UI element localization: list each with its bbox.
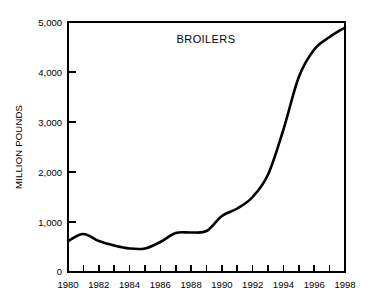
y-axis-title: MILLION POUNDS xyxy=(13,105,24,189)
data-series-line-broilers xyxy=(68,28,345,250)
y-axis-ticks xyxy=(68,72,76,222)
x-tick-label-1980: 1980 xyxy=(57,279,78,290)
y-tick-label-1000: 1,000 xyxy=(38,217,62,228)
chart-title: BROILERS xyxy=(177,33,236,45)
y-tick-label-2000: 2,000 xyxy=(38,167,62,178)
x-tick-label-1986: 1986 xyxy=(150,279,171,290)
y-tick-label-4000: 4,000 xyxy=(38,67,62,78)
axis-frame xyxy=(68,22,345,272)
x-tick-label-1990: 1990 xyxy=(211,279,232,290)
x-tick-label-1996: 1996 xyxy=(304,279,325,290)
x-tick-label-1984: 1984 xyxy=(119,279,140,290)
x-tick-label-1988: 1988 xyxy=(181,279,202,290)
y-tick-label-5000: 5,000 xyxy=(38,17,62,28)
y-tick-label-0: 0 xyxy=(57,266,62,277)
x-axis-tick-labels: 1980198219841986198819901992199419961998 xyxy=(57,279,355,290)
plot-border xyxy=(68,22,345,272)
y-axis-tick-labels: 0 1,000 2,000 3,000 4,000 5,000 xyxy=(38,17,62,278)
x-tick-label-1994: 1994 xyxy=(273,279,294,290)
x-tick-label-1982: 1982 xyxy=(88,279,109,290)
y-tick-label-3000: 3,000 xyxy=(38,117,62,128)
x-tick-label-1992: 1992 xyxy=(242,279,263,290)
x-tick-label-1998: 1998 xyxy=(334,279,355,290)
chart-plot-svg: 0 1,000 2,000 3,000 4,000 5,000 19801982… xyxy=(0,0,372,306)
broilers-chart-figure: 0 1,000 2,000 3,000 4,000 5,000 19801982… xyxy=(0,0,372,306)
